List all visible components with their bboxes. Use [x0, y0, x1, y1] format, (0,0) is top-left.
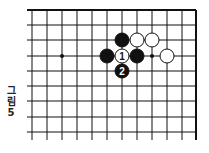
- board-grid: [27, 10, 196, 140]
- black-stone: [130, 49, 144, 63]
- black-stone-icon: [130, 49, 144, 63]
- caption-number: 5: [4, 107, 18, 118]
- black-stone: [115, 33, 129, 47]
- black-stone-icon: [115, 33, 129, 47]
- white-stone: [130, 33, 144, 47]
- move-number: 1: [119, 51, 125, 62]
- black-stone: 2: [115, 64, 129, 78]
- black-stone-icon: [100, 49, 114, 63]
- figure-caption: 그 림 5: [4, 85, 18, 118]
- white-stone: 1: [115, 49, 129, 63]
- white-stone-icon: [160, 49, 174, 63]
- star-point-icon: [60, 54, 64, 58]
- white-stone: [145, 33, 159, 47]
- black-stone: [100, 49, 114, 63]
- caption-char-2: 림: [4, 96, 18, 107]
- caption-char-1: 그: [4, 85, 18, 96]
- white-stone: [160, 49, 174, 63]
- white-stone-icon: [145, 33, 159, 47]
- move-number: 2: [119, 66, 125, 77]
- white-stone-icon: [130, 33, 144, 47]
- go-board-diagram: 12: [0, 0, 209, 153]
- star-point-icon: [150, 54, 154, 58]
